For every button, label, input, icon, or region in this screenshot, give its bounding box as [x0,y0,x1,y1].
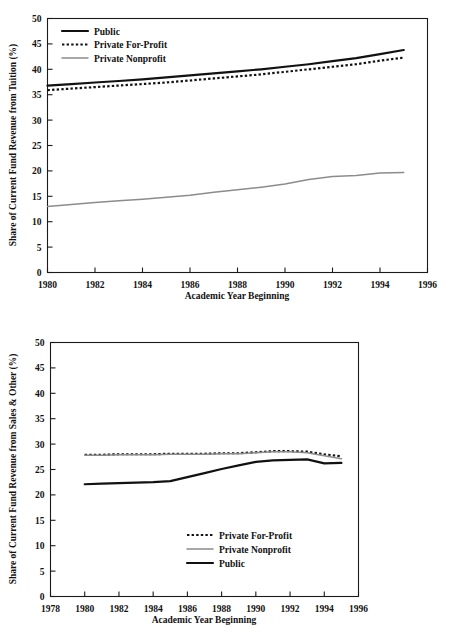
y-tick-label: 30 [32,116,42,126]
x-tick-label: 1992 [323,280,342,290]
y-axis-title: Share of Current Fund Revenue from Tuiti… [8,44,19,246]
x-tick-label: 1990 [246,604,265,614]
series-line-private-nonprofit [85,452,342,459]
x-axis-title: Academic Year Beginning [152,615,257,625]
legend-label-0: Public [94,27,120,37]
y-tick-label: 45 [35,363,45,373]
legend-label-2: Public [219,559,245,569]
x-tick-label: 1988 [212,604,231,614]
y-tick-label: 15 [35,516,45,526]
x-tick-label: 1996 [418,280,437,290]
chart-tuition: 1980198219841986198819901992199419960510… [0,0,451,330]
series-line-public [85,459,342,484]
x-tick-label: 1994 [371,280,390,290]
y-tick-label: 5 [40,567,45,577]
y-tick-label: 20 [32,166,42,176]
legend-sales: Private For-ProfitPrivate NonprofitPubli… [187,531,293,569]
y-tick-label: 25 [35,465,45,475]
x-tick-label: 1990 [276,280,295,290]
x-tick-label: 1982 [109,604,128,614]
x-tick-label: 1996 [349,604,368,614]
y-tick-label: 0 [37,268,42,278]
x-tick-label: 1986 [178,604,197,614]
chart-tuition-canvas: 1980198219841986198819901992199419960510… [0,0,451,330]
y-tick-label: 10 [35,541,45,551]
y-tick-label: 45 [32,39,42,49]
y-tick-label: 50 [32,14,42,24]
series-group-sales [85,451,342,484]
chart-sales-canvas: 1978198019821984198619881990199219941996… [0,330,451,643]
series-group-tuition [48,50,404,206]
x-tick-label: 1980 [38,280,57,290]
y-tick-label: 25 [32,141,42,151]
y-tick-label: 30 [35,440,45,450]
legend-label-1: Private For-Profit [94,40,168,50]
x-tick-label: 1978 [41,604,60,614]
chart-sales-and-other: 1978198019821984198619881990199219941996… [0,330,451,643]
x-tick-label: 1986 [181,280,200,290]
y-axis-title: Share of Current Fund Revenue from Sales… [8,354,19,585]
y-tick-label: 50 [35,338,45,348]
axis-ticks-sales [51,343,359,597]
x-tick-label: 1994 [315,604,334,614]
x-tick-label: 1984 [144,604,163,614]
y-tick-label: 35 [32,90,42,100]
y-tick-label: 35 [35,414,45,424]
legend-label-1: Private Nonprofit [219,545,292,555]
legend-label-0: Private For-Profit [219,531,293,541]
x-tick-label: 1988 [228,280,247,290]
x-axis-title: Academic Year Beginning [185,291,290,301]
plot-frame-sales [51,343,359,597]
y-tick-label: 0 [40,592,45,602]
x-tick-label: 1980 [75,604,94,614]
legend-label-2: Private Nonprofit [94,54,167,64]
x-tick-label: 1984 [133,280,152,290]
series-line-private-nonprofit [48,172,404,206]
y-tick-label: 40 [35,389,45,399]
y-tick-label: 20 [35,490,45,500]
axis-tick-labels-sales: 1978198019821984198619881990199219941996… [35,338,368,614]
y-tick-label: 40 [32,65,42,75]
y-tick-label: 15 [32,192,42,202]
y-tick-label: 10 [32,217,42,227]
legend-tuition: PublicPrivate For-ProfitPrivate Nonprofi… [62,27,168,64]
x-tick-label: 1982 [86,280,105,290]
y-tick-label: 5 [37,243,42,253]
x-tick-label: 1992 [281,604,300,614]
